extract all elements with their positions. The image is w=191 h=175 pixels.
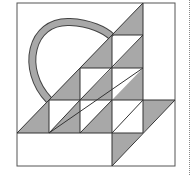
- basket-quilt-block: [0, 0, 191, 175]
- dotted-separator: [189, 0, 190, 175]
